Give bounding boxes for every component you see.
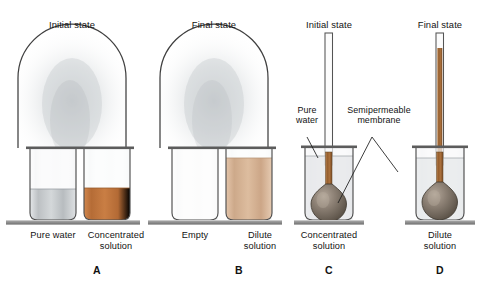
panel-letter-b: B <box>222 265 256 276</box>
beaker-rim <box>412 146 468 149</box>
panel-letter-d: D <box>423 265 457 276</box>
osmometer-stem-d <box>437 152 444 184</box>
beaker-rim <box>168 147 222 150</box>
state-title-b: Final state <box>164 19 264 30</box>
beaker-pure-water-a <box>26 147 80 221</box>
panel-letter-a: A <box>80 265 114 276</box>
label-dilute-solution-d: Dilute solution <box>394 230 482 252</box>
beaker-rim <box>26 147 80 150</box>
panel-letter-c: C <box>312 265 346 276</box>
state-title-c: Initial state <box>279 19 379 30</box>
callout-semipermeable-membrane: Semipermeable membrane <box>336 105 422 125</box>
beaker-rim <box>222 147 276 150</box>
label-concentrated-solution-a: Concentrated solution <box>66 230 166 252</box>
beaker-rim <box>301 146 357 149</box>
beaker-dilute-b <box>222 147 276 221</box>
panel-c-group <box>294 33 398 225</box>
label-concentrated-solution-c: Concentrated solution <box>281 230 377 252</box>
beaker-empty-b <box>168 147 222 221</box>
osmometer-stem-c <box>326 152 333 186</box>
callout-pure-water: Pure water <box>284 105 330 125</box>
leader-membrane-d <box>372 137 398 172</box>
beaker-rim <box>80 147 134 150</box>
panel-a-group <box>6 24 140 225</box>
state-title-d: Final state <box>390 19 482 30</box>
panel-b-group <box>148 24 282 225</box>
osmosis-figure: Initial state Final state Initial state … <box>0 0 482 292</box>
capillary-tube-c <box>325 33 333 165</box>
state-title-a: Initial state <box>22 19 122 30</box>
beaker-concentrated-a <box>80 147 134 221</box>
panel-d-group <box>405 33 475 225</box>
